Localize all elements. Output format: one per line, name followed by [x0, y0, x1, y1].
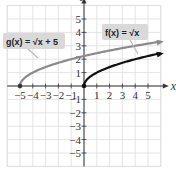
x-tick-label: 1 — [94, 89, 100, 101]
y-tick-label: −4 — [69, 134, 81, 146]
x-axis-arrow — [163, 84, 169, 89]
y-tick-label: 3 — [76, 40, 82, 52]
y-tick-label: 2 — [76, 53, 82, 65]
x-tick-label: 4 — [132, 89, 138, 101]
chart: xy −5−4−3−2−11234554321−1−2−3−4−5 g(x) =… — [0, 0, 176, 174]
x-tick-label: 5 — [145, 89, 151, 101]
label-f: f(x) = √x — [105, 28, 139, 38]
x-tick-label: 3 — [120, 89, 126, 101]
y-tick-label: 1 — [76, 67, 82, 79]
x-tick-label: −5 — [14, 89, 26, 101]
y-tick-label: −2 — [69, 107, 81, 119]
y-axis-label: y — [80, 0, 87, 1]
x-axis-label: x — [170, 79, 176, 93]
start-point — [82, 84, 87, 89]
start-point — [18, 84, 23, 89]
y-tick-label: 5 — [76, 13, 82, 25]
x-tick-label: −4 — [27, 89, 39, 101]
label-g: g(x) = √x + 5 — [6, 37, 58, 47]
x-tick-label: −2 — [53, 89, 65, 101]
x-tick-label: −3 — [40, 89, 52, 101]
y-tick-label: −5 — [69, 147, 81, 159]
y-tick-label: −1 — [69, 93, 81, 105]
y-tick-label: 4 — [76, 26, 82, 38]
x-tick-label: 2 — [107, 89, 113, 101]
y-tick-label: −3 — [69, 120, 81, 132]
